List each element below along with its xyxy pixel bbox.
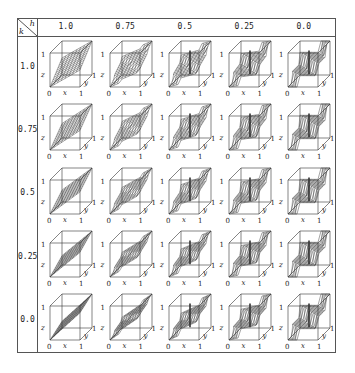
z-max-label: 1 bbox=[101, 305, 105, 312]
y-max-label: 1 bbox=[92, 263, 96, 270]
x-axis-label: x bbox=[301, 343, 305, 350]
surface-plot: 1z0x1y1 bbox=[217, 37, 277, 100]
z-max-label: 1 bbox=[41, 52, 45, 59]
x-max-label: 1 bbox=[79, 218, 83, 225]
x-origin-label: 0 bbox=[226, 281, 230, 288]
z-axis-label: z bbox=[101, 262, 105, 269]
x-axis-label: x bbox=[123, 153, 127, 160]
y-axis-label: y bbox=[144, 143, 148, 150]
x-axis-label: x bbox=[63, 217, 67, 224]
y-axis-label: y bbox=[203, 207, 207, 214]
row-header: 0.75 bbox=[18, 125, 37, 134]
column-header: 0.25 bbox=[224, 22, 264, 31]
x-max-label: 1 bbox=[258, 281, 262, 288]
x-max-label: 1 bbox=[258, 91, 262, 98]
x-max-label: 1 bbox=[79, 91, 83, 98]
z-max-label: 1 bbox=[160, 52, 164, 59]
x-axis-label: x bbox=[123, 280, 127, 287]
x-origin-label: 0 bbox=[47, 154, 51, 161]
y-axis-label: y bbox=[144, 270, 148, 277]
y-max-label: 1 bbox=[211, 326, 215, 333]
surface-plot: 1z0x1y1 bbox=[217, 227, 277, 290]
y-axis-label: y bbox=[84, 333, 88, 340]
x-axis-label: x bbox=[123, 343, 127, 350]
surface-plot: 1z0x1y1 bbox=[38, 100, 98, 163]
y-axis-label: y bbox=[322, 333, 326, 340]
y-max-label: 1 bbox=[271, 263, 275, 270]
x-origin-label: 0 bbox=[166, 344, 170, 351]
y-axis-label: y bbox=[84, 143, 88, 150]
x-axis-label: x bbox=[63, 153, 67, 160]
surface-plot: 1z0x1y1 bbox=[98, 290, 158, 353]
z-max-label: 1 bbox=[101, 115, 105, 122]
x-axis-label: x bbox=[123, 90, 127, 97]
z-max-label: 1 bbox=[41, 305, 45, 312]
x-origin-label: 0 bbox=[47, 281, 51, 288]
x-origin-label: 0 bbox=[226, 154, 230, 161]
y-max-label: 1 bbox=[152, 263, 156, 270]
x-origin-label: 0 bbox=[107, 281, 111, 288]
surface-plot: 1z0x1y1 bbox=[98, 37, 158, 100]
x-max-label: 1 bbox=[317, 154, 321, 161]
y-axis-label: y bbox=[322, 207, 326, 214]
y-axis-label: y bbox=[322, 80, 326, 87]
x-origin-label: 0 bbox=[107, 218, 111, 225]
y-axis-label: y bbox=[203, 143, 207, 150]
z-axis-label: z bbox=[160, 135, 164, 142]
y-axis-label: y bbox=[263, 207, 267, 214]
z-max-label: 1 bbox=[41, 242, 45, 249]
z-axis-label: z bbox=[41, 135, 45, 142]
surface-plot: 1z0x1y1 bbox=[217, 290, 277, 353]
z-axis-label: z bbox=[220, 262, 224, 269]
x-axis-label: x bbox=[182, 280, 186, 287]
y-axis-label: y bbox=[144, 333, 148, 340]
x-max-label: 1 bbox=[198, 281, 202, 288]
x-axis-label: x bbox=[242, 280, 246, 287]
column-header: 1.0 bbox=[46, 22, 86, 31]
z-max-label: 1 bbox=[160, 242, 164, 249]
z-axis-label: z bbox=[279, 199, 283, 206]
x-origin-label: 0 bbox=[166, 281, 170, 288]
y-axis-label: y bbox=[144, 207, 148, 214]
z-axis-label: z bbox=[220, 72, 224, 79]
surface-plot: 1z0x1y1 bbox=[157, 227, 217, 290]
row-header: 0.25 bbox=[18, 252, 37, 261]
z-axis-label: z bbox=[101, 72, 105, 79]
z-max-label: 1 bbox=[279, 52, 283, 59]
z-max-label: 1 bbox=[101, 179, 105, 186]
y-max-label: 1 bbox=[271, 73, 275, 80]
surface-plot: 1z0x1y1 bbox=[157, 37, 217, 100]
row-header: 0.5 bbox=[18, 188, 37, 197]
surface-plot: 1z0x1y1 bbox=[38, 290, 98, 353]
y-max-label: 1 bbox=[92, 73, 96, 80]
z-max-label: 1 bbox=[220, 305, 224, 312]
z-axis-label: z bbox=[279, 135, 283, 142]
z-axis-label: z bbox=[279, 325, 283, 332]
y-axis-label: y bbox=[263, 143, 267, 150]
z-axis-label: z bbox=[220, 325, 224, 332]
x-axis-label: x bbox=[182, 217, 186, 224]
x-origin-label: 0 bbox=[107, 91, 111, 98]
y-max-label: 1 bbox=[92, 326, 96, 333]
z-max-label: 1 bbox=[279, 242, 283, 249]
corner-cell: h k bbox=[18, 19, 38, 37]
x-axis-label: x bbox=[182, 90, 186, 97]
x-origin-label: 0 bbox=[166, 91, 170, 98]
surface-plot: 1z0x1y1 bbox=[38, 227, 98, 290]
y-max-label: 1 bbox=[211, 73, 215, 80]
y-max-label: 1 bbox=[152, 200, 156, 207]
x-axis-label: x bbox=[242, 153, 246, 160]
z-axis-label: z bbox=[279, 72, 283, 79]
row-header: 1.0 bbox=[18, 62, 37, 71]
x-origin-label: 0 bbox=[107, 344, 111, 351]
x-axis-label: x bbox=[301, 153, 305, 160]
z-axis-label: z bbox=[220, 199, 224, 206]
y-max-label: 1 bbox=[330, 136, 334, 143]
y-axis-label: y bbox=[84, 207, 88, 214]
y-axis-label: y bbox=[84, 270, 88, 277]
surface-plot: 1z0x1y1 bbox=[98, 100, 158, 163]
y-max-label: 1 bbox=[152, 326, 156, 333]
y-max-label: 1 bbox=[92, 200, 96, 207]
surface-plot: 1z0x1y1 bbox=[276, 290, 336, 353]
column-header: 0.5 bbox=[165, 22, 205, 31]
